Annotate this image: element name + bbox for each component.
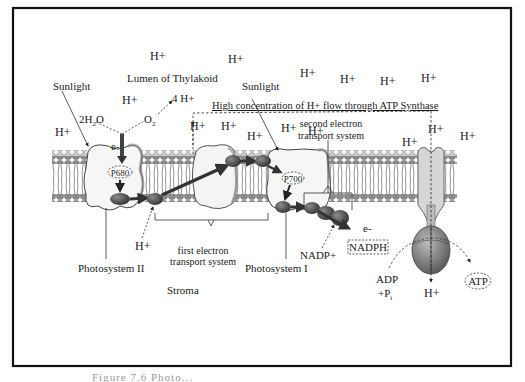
h-plus-ion: H+ [228,52,244,66]
h-plus-ion: H+ [300,66,316,80]
h-plus-ion: H+ [122,93,138,107]
figure-caption: Figure 7.6 Photo... [0,373,525,382]
first-ets-label-1: first electron [178,245,229,256]
diagram-canvas: P680 P700 [0,0,525,382]
sunlight-label-right: Sunlight [242,80,279,92]
p700-label: P700 [284,174,303,184]
h-plus-ion: H+ [402,135,418,149]
h-plus-ion: H+ [428,122,444,136]
electron-label-psii: e- [111,140,120,152]
atp-label: ATP [468,275,488,287]
h-plus-ion: H+ [150,49,166,63]
h-plus-ion: H+ [247,129,263,143]
h-plus-ion: H+ [221,119,237,133]
stroma-label: Stroma [167,284,199,296]
psii-acceptor [110,193,130,205]
cytochrome-carrier [225,155,241,167]
lumen-label: Lumen of Thylakoid [127,72,218,84]
h-plus-ion: H+ [308,124,324,138]
figure-caption-text: Figure 7.6 Photo... [92,373,193,382]
nadph-label: NADPH [349,241,387,253]
first-ets-label-2: transport system [170,256,236,267]
h-plus-ion: H+ [421,71,437,85]
four-h-label: 4 H+ [172,92,194,104]
p680-label: P680 [111,168,130,178]
plastoquinone-carrier [147,193,163,205]
gradient-flow-label: High concentration of H+ flow through AT… [212,100,439,111]
h-plus-ion: H+ [460,129,476,143]
h-plus-ion: H+ [281,121,297,135]
adp-label: ADP [376,273,398,285]
h-plus-ion: H+ [380,74,396,88]
photosystem-i-label: Photosystem I [245,262,308,274]
nadp-label: NADP+ [300,249,336,261]
photosystem-i-complex: P700 [267,149,331,213]
h-plus-atp-out: H+ [424,286,440,300]
electron-label-psi: e- [363,222,372,234]
photosystem-ii-label: Photosystem II [78,262,145,274]
psi-acceptor [275,201,291,213]
sunlight-label-left: Sunlight [53,80,90,92]
h-plus-ion: H+ [55,125,71,139]
h-plus-ion: H+ [340,72,356,86]
h-plus-stroma-left: H+ [135,239,151,253]
h-plus-ion: H+ [190,119,206,133]
